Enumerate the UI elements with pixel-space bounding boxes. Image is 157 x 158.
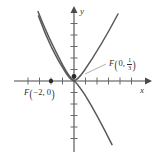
label-focus-right-open-paren: ( [115, 59, 118, 70]
label-focus-left-fn: F [24, 87, 29, 97]
label-focus-left-open-paren: ( [30, 88, 33, 99]
coordinate-plot: x y [0, 0, 157, 158]
x-axis-arrowhead [145, 78, 152, 85]
label-focus-right-fraction: 13 [127, 57, 132, 72]
label-focus-right-close-paren: ) [133, 59, 136, 70]
label-focus-right-coords: 0, [119, 58, 128, 68]
fraction-numerator: 1 [127, 57, 132, 64]
x-axis [14, 78, 152, 85]
label-focus-left-close-paren: ) [52, 88, 55, 99]
graph-figure: x y F(−2, 0) F(0, 13) [0, 0, 157, 158]
point-marker-focus-right [72, 74, 77, 79]
x-axis-label: x [139, 85, 144, 95]
label-focus-left-coords: −2, 0 [34, 87, 52, 97]
y-axis-arrowhead [71, 6, 78, 13]
curve-parabola [39, 14, 119, 81]
point-marker-focus-left [49, 79, 53, 83]
fraction-denominator: 3 [127, 65, 132, 72]
label-focus-right: F(0, 13) [109, 57, 137, 72]
label-focus-left: F(−2, 0) [24, 88, 55, 99]
label-focus-right-fn: F [109, 58, 114, 68]
y-axis-label: y [79, 6, 84, 16]
